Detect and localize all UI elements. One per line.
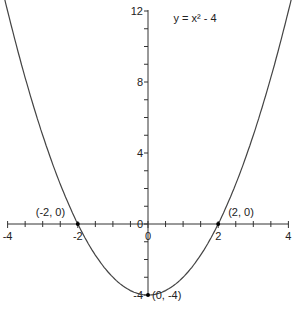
x-tick-label: 4 <box>285 230 291 242</box>
x-tick-label: -4 <box>3 230 13 242</box>
x-tick-label: 2 <box>215 230 221 242</box>
y-tick-label: 12 <box>131 5 143 17</box>
chart-container: -4-202412840-4y = x² - 4(-2, 0)(2, 0)(0,… <box>0 0 298 313</box>
y-tick-label: 0 <box>137 218 143 230</box>
point-marker <box>76 222 80 226</box>
point-label: (0, -4) <box>152 289 181 301</box>
point-label: (2, 0) <box>228 206 254 218</box>
point-label: (-2, 0) <box>36 206 65 218</box>
point-marker <box>146 293 150 297</box>
y-tick-label: 4 <box>137 147 143 159</box>
x-tick-label: 0 <box>145 230 151 242</box>
point-marker <box>216 222 220 226</box>
parabola-chart: -4-202412840-4y = x² - 4(-2, 0)(2, 0)(0,… <box>0 0 298 313</box>
chart-title: y = x² - 4 <box>173 12 216 24</box>
y-tick-label: 8 <box>137 76 143 88</box>
